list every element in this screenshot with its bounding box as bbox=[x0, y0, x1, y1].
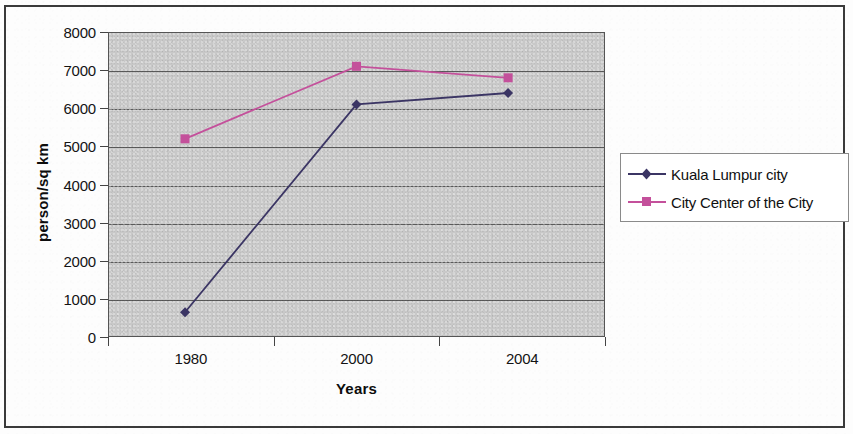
data-point-marker bbox=[504, 73, 513, 82]
y-tick-label: 1000 bbox=[22, 290, 96, 307]
x-axis-title: Years bbox=[108, 380, 605, 397]
legend-item-label: Kuala Lumpur city bbox=[671, 166, 788, 183]
data-point-marker bbox=[352, 62, 361, 71]
data-point-marker bbox=[503, 88, 513, 98]
series-line bbox=[185, 66, 508, 139]
x-tick-label: 2000 bbox=[312, 350, 402, 367]
y-tick-mark bbox=[100, 185, 108, 186]
y-tick-label: 0 bbox=[22, 329, 96, 346]
y-tick-mark bbox=[100, 337, 108, 338]
x-tick-label: 1980 bbox=[146, 350, 236, 367]
y-tick-label: 8000 bbox=[22, 24, 96, 41]
y-tick-label: 7000 bbox=[22, 62, 96, 79]
x-tick-mark bbox=[439, 337, 440, 346]
legend-diamond-marker-icon bbox=[627, 167, 667, 181]
y-tick-mark bbox=[100, 299, 108, 300]
x-tick-mark bbox=[274, 337, 275, 346]
legend-item[interactable]: City Center of the City bbox=[627, 188, 842, 216]
line-chart: person/sq km 800070006000500040003000200… bbox=[14, 14, 614, 414]
y-tick-label: 6000 bbox=[22, 100, 96, 117]
legend-item-label: City Center of the City bbox=[671, 194, 813, 211]
screenshot-root: person/sq km 800070006000500040003000200… bbox=[0, 0, 853, 434]
data-point-marker bbox=[181, 134, 190, 143]
y-tick-label: 3000 bbox=[22, 214, 96, 231]
y-tick-mark bbox=[100, 223, 108, 224]
x-tick-mark bbox=[108, 337, 109, 346]
y-tick-mark bbox=[100, 108, 108, 109]
y-tick-mark bbox=[100, 146, 108, 147]
y-tick-mark bbox=[100, 32, 108, 33]
y-tick-label: 2000 bbox=[22, 252, 96, 269]
y-tick-mark bbox=[100, 261, 108, 262]
y-tick-mark bbox=[100, 70, 108, 71]
y-tick-label: 5000 bbox=[22, 138, 96, 155]
series-line bbox=[185, 93, 508, 312]
legend-item[interactable]: Kuala Lumpur city bbox=[627, 160, 842, 188]
y-tick-label: 4000 bbox=[22, 176, 96, 193]
x-tick-mark bbox=[605, 337, 606, 346]
chart-legend: Kuala Lumpur city City Center of the Cit… bbox=[620, 153, 849, 222]
data-series-layer bbox=[108, 32, 605, 337]
legend-square-marker-icon bbox=[627, 195, 667, 209]
x-tick-label: 2004 bbox=[477, 350, 567, 367]
